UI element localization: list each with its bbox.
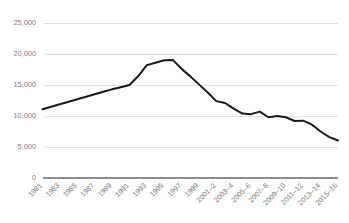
- x-axis-tick-label: 1995: [148, 181, 166, 199]
- x-axis-tick-label: 1985: [61, 181, 79, 199]
- chart-canvas: 05,00010,00015,00020,00025,000 198119831…: [0, 0, 349, 223]
- x-axis-tick-label: 1981: [26, 181, 44, 199]
- x-axis-tick-label: 1987: [78, 181, 96, 199]
- x-axis-tick-label: 1983: [44, 181, 62, 199]
- gridlines: [43, 23, 339, 147]
- data-series: [43, 60, 339, 141]
- y-axis-tick-labels: 05,00010,00015,00020,00025,000: [13, 18, 36, 182]
- y-axis-tick-label: 20,000: [13, 49, 36, 58]
- x-axis-tick-label: 1997: [165, 181, 183, 199]
- y-axis-tick-label: 5,000: [18, 142, 37, 151]
- y-axis-tick-label: 10,000: [13, 111, 36, 120]
- series-line: [43, 60, 339, 141]
- x-axis-tick-labels: 1981198319851987198919911993199519971999…: [26, 181, 339, 207]
- line-chart: 05,00010,00015,00020,00025,000 198119831…: [0, 0, 349, 223]
- x-axis-tick-label: 1991: [113, 181, 131, 199]
- x-axis-tick-label: 1993: [131, 181, 149, 199]
- y-axis-tick-label: 25,000: [13, 18, 36, 27]
- y-axis-tick-label: 0: [32, 173, 36, 182]
- y-axis-tick-label: 15,000: [13, 80, 36, 89]
- x-axis-tick-label: 1989: [96, 181, 114, 199]
